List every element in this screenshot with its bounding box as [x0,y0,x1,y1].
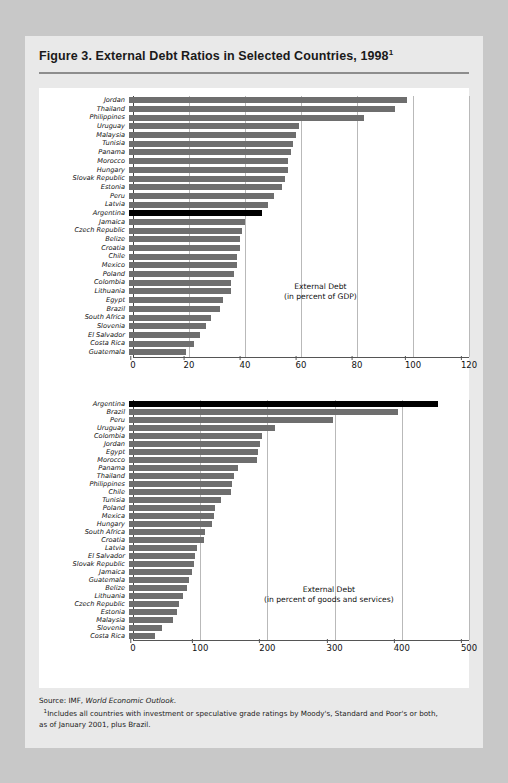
figure-title: Figure 3. External Debt Ratios in Select… [25,36,483,63]
category-label: Malaysia [39,132,129,139]
bar-row: Costa Rica [39,632,469,640]
category-label: Tunisia [39,497,129,504]
bar-track [129,105,469,114]
bar [129,297,223,303]
title-divider [39,72,469,74]
x-tick-mark [405,356,406,360]
bar [129,254,237,260]
bar-track [129,520,469,528]
source-prefix: Source: IMF, [39,696,85,705]
x-tick-label: 0 [130,643,135,653]
bar [129,585,187,591]
chart-panel-bottom: ArgentinaBrazilPeruUruguayColombiaJordan… [39,400,469,672]
category-label: Poland [39,505,129,512]
category-label: Uruguay [39,123,129,130]
bar [129,489,231,495]
bar-row: Malaysia [39,616,469,624]
category-label: Panama [39,149,129,156]
bar-track [129,544,469,552]
bar-row: Peru [39,416,469,424]
bar [129,149,291,155]
category-label: Estonia [39,609,129,616]
bar-row: Tunisia [39,496,469,504]
bar [129,569,192,575]
bar [129,210,262,216]
footnote-line-2: as of January 2001, plus Brazil. [39,720,151,729]
bar-row: Argentina [39,400,469,408]
bar-row: Poland [39,270,469,279]
category-label: Philippines [39,114,129,121]
category-label: Philippines [39,481,129,488]
category-label: Peru [39,193,129,200]
bar-track [129,496,469,504]
category-label: Jordan [39,97,129,104]
annotation-bottom-title: External Debt [264,585,394,595]
figure-card: Figure 3. External Debt Ratios in Select… [25,36,483,748]
bar [129,262,237,268]
bar-row: Poland [39,504,469,512]
bar-row: Chile [39,488,469,496]
bar-track [129,512,469,520]
bar-row: Croatia [39,244,469,253]
bar-track [129,218,469,227]
bar-track [129,261,469,270]
x-tick-mark [130,639,131,643]
bar-row: Jamaica [39,218,469,227]
category-label: El Salvador [39,332,129,339]
bar-track [129,616,469,624]
x-axis-ticks-top: 020406080100120 [133,358,469,372]
source-line: Source: IMF, World Economic Outlook. [39,696,469,707]
bar-row: Estonia [39,608,469,616]
x-tick-label: 200 [259,643,275,653]
bar-track [129,313,469,322]
category-label: Czech Republic [39,601,129,608]
category-label: Jamaica [39,569,129,576]
bar-row: Philippines [39,480,469,488]
x-tick-mark [461,639,462,643]
category-label: Slovenia [39,625,129,632]
x-tick-label: 0 [130,360,135,370]
bar-row: Argentina [39,209,469,218]
bar-row: Slovenia [39,322,469,331]
category-label: Colombia [39,279,129,286]
category-label: Uruguay [39,425,129,432]
bar-row: Jamaica [39,568,469,576]
x-tick-label: 400 [394,643,410,653]
bar-row: Brazil [39,305,469,314]
bar [129,513,214,519]
bar [129,537,204,543]
bar [129,167,288,173]
bar [129,132,296,138]
bar [129,497,221,503]
category-label: Chile [39,489,129,496]
gridline [469,96,470,357]
footnote: 1Includes all countries with investment … [39,707,469,731]
bar-row: Mexico [39,261,469,270]
figure-footer: Source: IMF, World Economic Outlook. 1In… [39,696,469,731]
bar-track [129,244,469,253]
bar [129,306,220,312]
category-label: Argentina [39,210,129,217]
bar-row: Philippines [39,113,469,122]
bar-row: Jordan [39,440,469,448]
bar [129,481,232,487]
bar-track [129,322,469,331]
bar [129,617,173,623]
bar-rows-top: JordanThailandPhilippinesUruguayMalaysia… [39,96,469,357]
bar [129,97,407,103]
bar [129,280,231,286]
bar-row: Chile [39,252,469,261]
bar-row: Slovak Republic [39,174,469,183]
bar-row: Uruguay [39,424,469,432]
category-label: Belize [39,236,129,243]
bar [129,425,275,431]
bar-track [129,632,469,640]
category-label: Hungary [39,521,129,528]
bar-row: Belize [39,235,469,244]
figure-title-text: Figure 3. External Debt Ratios in Select… [39,49,389,63]
bar [129,158,288,164]
bar [129,561,194,567]
bar-row: Lithuania [39,287,469,296]
category-label: Belize [39,585,129,592]
bar [129,106,395,112]
